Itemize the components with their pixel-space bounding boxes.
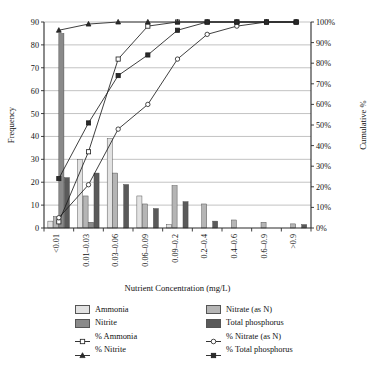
legend-swatch [75, 319, 90, 328]
line-marker-open-square [116, 57, 120, 61]
x-axis-category-label: 0.06–0.09 [141, 234, 150, 267]
line-marker-filled-square [86, 121, 90, 125]
bar [89, 222, 94, 228]
bars-group [48, 33, 307, 228]
y-axis-tick-label: 10 [31, 201, 39, 210]
chart-plot-area: 01020304050607080900%10%20%30%40%50%60%7… [0, 0, 379, 300]
line-marker-filled-square [264, 20, 268, 24]
line-marker-open-circle [146, 102, 150, 106]
bar [213, 221, 218, 228]
y2-axis-tick-label: 70% [316, 80, 331, 89]
legend-item[interactable]: % Total phosphorus [206, 346, 365, 355]
y-axis-tick-label: 30 [31, 155, 39, 164]
x-axis-category-label: 0.2–0.4 [200, 234, 209, 259]
line-marker-filled-square [146, 53, 150, 57]
y-axis-title: Frequency [6, 106, 16, 143]
bar [107, 139, 112, 228]
bar [261, 222, 266, 228]
legend-label: % Nitrate (as N) [226, 333, 281, 341]
legend-label: % Nitrite [95, 346, 126, 354]
legend-line-swatch [206, 332, 221, 341]
legend-item[interactable]: % Ammonia [75, 332, 198, 341]
x-axis-category-label: 0.4–0.6 [230, 234, 239, 259]
x-axis-category-label: >0.9 [289, 234, 298, 249]
x-axis-category-label: <0.01 [52, 234, 61, 253]
y-axis-tick-label: 60 [31, 87, 39, 96]
legend-marker-filled-square [206, 351, 221, 360]
y-axis-tick-label: 40 [31, 132, 39, 141]
line-marker-open-circle [116, 127, 120, 131]
line-marker-filled-square [205, 20, 209, 24]
chart-page: 01020304050607080900%10%20%30%40%50%60%7… [0, 0, 379, 369]
line-marker-open-square [57, 220, 61, 224]
bar [59, 33, 64, 228]
legend-label: Nitrite [95, 319, 117, 327]
x-axis-category-label: 0.6–0.9 [260, 234, 269, 259]
chart-svg: 01020304050607080900%10%20%30%40%50%60%7… [0, 0, 379, 300]
line-marker-open-square [86, 150, 90, 154]
bar [291, 224, 296, 228]
legend-line-swatch [75, 346, 90, 355]
legend-label: % Ammonia [95, 333, 137, 341]
y-axis-tick-label: 80 [31, 41, 39, 50]
bar [202, 204, 207, 228]
legend-item[interactable]: Ammonia [75, 305, 198, 314]
line-marker-open-circle [57, 216, 61, 220]
y2-axis-tick-label: 30% [316, 162, 331, 171]
line-marker-filled-square [57, 176, 61, 180]
legend-item[interactable]: Nitrate (as N) [206, 305, 365, 314]
y-axis-tick-label: 90 [31, 18, 39, 27]
y-axis-tick-label: 20 [31, 178, 39, 187]
gridlines-group [44, 22, 311, 205]
bar [137, 196, 142, 228]
y2-axis-tick-label: 0% [316, 224, 327, 233]
line-marker-open-square [146, 24, 150, 28]
chart-legend: AmmoniaNitrate (as N)NitriteTotal phosph… [0, 300, 379, 369]
bar [124, 185, 129, 228]
line-marker-filled-square [175, 28, 179, 32]
x-axis-category-label: 0.01–0.03 [82, 234, 91, 267]
legend-item[interactable]: Total phosphorus [206, 319, 365, 328]
bar [172, 186, 177, 228]
bar [113, 173, 118, 228]
line-marker-open-circle [175, 57, 179, 61]
y-axis-tick-label: 0 [35, 224, 39, 233]
legend-marker-filled-triangle [75, 351, 90, 360]
y-axis-tick-label: 70 [31, 64, 39, 73]
legend-item[interactable]: % Nitrite [75, 346, 198, 355]
y2-axis-tick-label: 90% [316, 39, 331, 48]
legend-label: Total phosphorus [226, 319, 284, 327]
legend-swatch [206, 319, 221, 328]
x-axis-category-label: 0.09–0.2 [171, 234, 180, 263]
line-marker-filled-square [235, 20, 239, 24]
legend-label: % Total phosphorus [226, 346, 293, 354]
bar [94, 173, 99, 228]
x-axis-title: Nutrient Concentration (mg/L) [125, 283, 231, 293]
legend-swatch [206, 305, 221, 314]
legend-label: Ammonia [95, 306, 129, 314]
y-axis-tick-label: 50 [31, 110, 39, 119]
legend-swatch [75, 305, 90, 314]
legend-grid: AmmoniaNitrate (as N)NitriteTotal phosph… [75, 303, 365, 357]
legend-line-swatch [75, 332, 90, 341]
y2-axis-tick-label: 50% [316, 121, 331, 130]
line-marker-open-circle [235, 24, 239, 28]
legend-item[interactable]: % Nitrate (as N) [206, 332, 365, 341]
y2-axis-tick-label: 80% [316, 59, 331, 68]
y2-axis-tick-label: 60% [316, 100, 331, 109]
y2-axis-tick-label: 20% [316, 183, 331, 192]
legend-label: Nitrate (as N) [226, 306, 272, 314]
x-axis-category-label: 0.03–0.06 [111, 234, 120, 267]
bar [48, 221, 53, 228]
y2-axis-tick-label: 10% [316, 203, 331, 212]
y2-axis-title: Cumulative % [358, 100, 368, 149]
series-line [59, 22, 296, 179]
lines-group [56, 19, 298, 224]
y2-axis-tick-label: 100% [316, 18, 335, 27]
line-marker-filled-square [116, 73, 120, 77]
bar [231, 220, 236, 228]
bar [153, 209, 158, 228]
legend-item[interactable]: Nitrite [75, 319, 198, 328]
y2-axis-tick-label: 40% [316, 142, 331, 151]
line-marker-open-circle [86, 183, 90, 187]
